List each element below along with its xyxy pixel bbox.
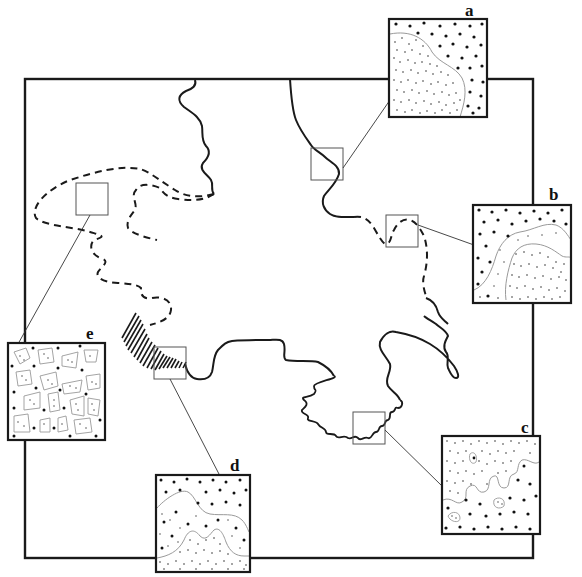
inset-label-c: c: [521, 419, 529, 436]
boundary-solid-top-left: [179, 80, 214, 194]
inset-a: [389, 19, 487, 117]
inset-c: [442, 436, 540, 534]
boundary-solid-east: [380, 316, 458, 400]
inset-label-e: e: [86, 325, 94, 342]
inset-b: [473, 205, 571, 303]
boundary-dashed-east: [354, 217, 427, 296]
boundary-solid-south: [185, 340, 334, 380]
inset-label-b: b: [549, 186, 558, 203]
diagram-canvas: [0, 0, 582, 577]
inset-label-d: d: [230, 457, 239, 474]
inset-e: [8, 343, 105, 440]
figure: a b c d e: [0, 0, 582, 577]
boundary-dashed-inner: [127, 185, 214, 240]
sample-box-e: [76, 183, 108, 215]
inset-label-a: a: [465, 2, 474, 19]
boundary-dashed-west: [35, 168, 214, 325]
inset-d: [156, 475, 250, 572]
